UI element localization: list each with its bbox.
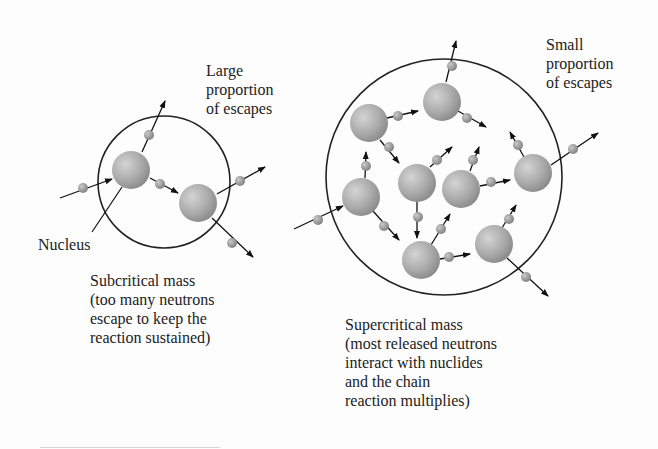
neutron <box>235 176 245 186</box>
nucleus <box>342 178 380 216</box>
neutron <box>379 221 389 231</box>
label-line: of escapes <box>206 99 274 118</box>
neutron <box>432 155 442 165</box>
neutron <box>144 130 154 140</box>
nucleus <box>112 151 150 189</box>
nucleus <box>398 164 436 202</box>
neutron <box>155 179 165 189</box>
subcritical-caption: Subcritical mass (too many neutrons esca… <box>90 271 214 347</box>
neutron <box>521 272 531 282</box>
caption-line: and the chain <box>345 372 497 391</box>
neutron <box>384 142 394 152</box>
neutron <box>568 144 578 154</box>
label-line: proportion <box>546 54 614 73</box>
label-line: Small <box>546 35 614 54</box>
nucleus <box>402 241 440 279</box>
nucleus <box>423 83 461 121</box>
neutron <box>444 252 454 262</box>
neutron <box>78 183 88 193</box>
divider <box>40 447 220 448</box>
neutron <box>413 212 423 222</box>
neutron <box>462 113 472 123</box>
subcritical-mass-diagram <box>60 101 265 257</box>
neutron <box>436 224 446 234</box>
caption-line: Supercritical mass <box>345 315 497 334</box>
nucleus-pointer-line <box>92 187 122 232</box>
neutron-path-arrow <box>142 101 165 152</box>
neutron <box>468 155 478 165</box>
label-line: proportion <box>206 80 274 99</box>
caption-line: reaction sustained) <box>90 328 214 347</box>
label-line: of escapes <box>546 73 614 92</box>
neutron <box>504 214 514 224</box>
label-line: Nucleus <box>38 235 90 254</box>
nucleus <box>514 154 552 192</box>
caption-line: interact with nuclides <box>345 353 497 372</box>
neutron <box>513 140 523 150</box>
neutron <box>227 238 237 248</box>
supercritical-caption: Supercritical mass (most released neutro… <box>345 315 497 410</box>
caption-line: (most released neutrons <box>345 334 497 353</box>
nucleus <box>442 170 480 208</box>
neutron <box>313 215 323 225</box>
caption-line: reaction multiplies) <box>345 391 497 410</box>
nucleus-label: Nucleus <box>38 235 90 254</box>
neutron <box>361 161 371 171</box>
caption-line: (too many neutrons <box>90 290 214 309</box>
large-proportion-label: Large proportion of escapes <box>206 61 274 118</box>
neutron <box>393 111 403 121</box>
neutron <box>447 61 457 71</box>
neutron-path-arrow <box>212 218 253 257</box>
nucleus <box>179 184 217 222</box>
neutron <box>486 177 496 187</box>
label-line: Large <box>206 61 274 80</box>
nucleus <box>475 225 513 263</box>
caption-line: escape to keep the <box>90 309 214 328</box>
small-proportion-label: Small proportion of escapes <box>546 35 614 92</box>
caption-line: Subcritical mass <box>90 271 214 290</box>
nucleus <box>350 104 388 142</box>
